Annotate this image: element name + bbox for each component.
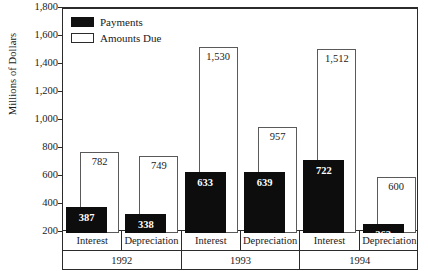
year-label-cell: 1993 bbox=[182, 251, 301, 269]
bar-value-label-amounts-due: 957 bbox=[259, 131, 296, 142]
category-label-cell: Interest bbox=[300, 231, 359, 250]
year-label-cell: 1994 bbox=[300, 251, 419, 269]
bar-payments: 387 bbox=[66, 207, 107, 233]
bar-value-label-payments: 639 bbox=[245, 177, 284, 188]
y-axis-tick-label: 1,600 bbox=[24, 30, 58, 40]
legend-label-amounts-due: Amounts Due bbox=[100, 33, 161, 44]
bar-payments: 338 bbox=[125, 214, 166, 233]
year-label-cell: 1992 bbox=[63, 251, 182, 269]
bar-value-label-payments: 387 bbox=[67, 212, 106, 223]
bar-payments: 262 bbox=[363, 224, 404, 233]
bar-payments: 633 bbox=[185, 172, 226, 233]
category-label-cell: Interest bbox=[63, 231, 122, 250]
legend: Payments Amounts Due bbox=[71, 15, 161, 47]
bar-value-label-amounts-due: 782 bbox=[81, 156, 118, 167]
category-label-cell: Depreciation bbox=[122, 231, 181, 250]
bar-value-label-payments: 338 bbox=[126, 219, 165, 230]
category-label-cell: Depreciation bbox=[241, 231, 300, 250]
plot-area: Payments Amounts Due 7823877493381,53063… bbox=[62, 7, 418, 231]
bar-value-label-amounts-due: 600 bbox=[378, 181, 415, 192]
bar-chart: Millions of Dollars 1,8001,6001,4001,200… bbox=[0, 0, 428, 271]
legend-item-payments: Payments bbox=[71, 15, 161, 29]
y-axis-title: Millions of Dollars bbox=[7, 4, 21, 144]
y-axis-tick-label: 200 bbox=[24, 226, 58, 236]
y-axis-tick-label: 1,400 bbox=[24, 58, 58, 68]
y-axis-tick-label: 400 bbox=[24, 198, 58, 208]
y-axis-tick-label: 600 bbox=[24, 170, 58, 180]
bar-value-label-payments: 633 bbox=[186, 177, 225, 188]
y-axis-tick-label: 1,200 bbox=[24, 86, 58, 96]
bar-value-label-amounts-due: 749 bbox=[140, 160, 177, 171]
legend-swatch-amounts-due bbox=[71, 33, 94, 43]
bar-payments: 722 bbox=[303, 160, 344, 233]
bar-value-label-amounts-due: 1,530 bbox=[200, 51, 237, 62]
y-axis-tick-label: 1,000 bbox=[24, 114, 58, 124]
y-axis-tick-label: 1,800 bbox=[24, 2, 58, 12]
legend-item-amounts-due: Amounts Due bbox=[71, 31, 161, 45]
bar-value-label-payments: 722 bbox=[304, 165, 343, 176]
y-axis-tick-label: 800 bbox=[24, 142, 58, 152]
bar-payments: 639 bbox=[244, 172, 285, 233]
bar-value-label-payments: 262 bbox=[364, 229, 403, 240]
category-label-cell: Interest bbox=[182, 231, 241, 250]
bar-value-label-amounts-due: 1,512 bbox=[318, 53, 355, 64]
legend-swatch-payments bbox=[71, 17, 94, 27]
plot-inner: Payments Amounts Due 7823877493381,53063… bbox=[63, 9, 417, 230]
y-axis-tick-labels: 1,8001,6001,4001,2001,000800600400200 bbox=[20, 0, 58, 271]
legend-label-payments: Payments bbox=[100, 17, 143, 28]
year-label-row: 199219931994 bbox=[62, 251, 418, 270]
